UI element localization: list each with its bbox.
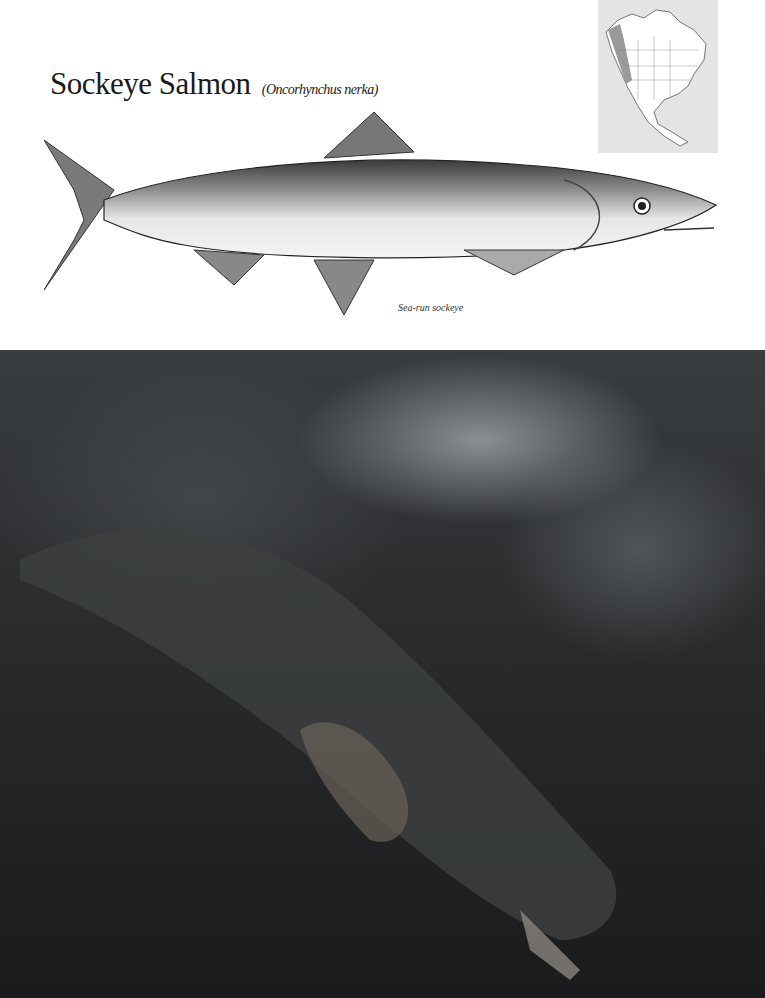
salmon-silhouette	[0, 350, 765, 998]
fish-illustration	[44, 110, 724, 325]
common-name: Sockeye Salmon	[50, 66, 251, 101]
illustration-caption: Sea-run sockeye	[398, 302, 463, 313]
underwater-photo	[0, 350, 765, 998]
page-title: Sockeye Salmon (Oncorhynchus nerka)	[50, 66, 378, 102]
scientific-name: (Oncorhynchus nerka)	[262, 82, 378, 97]
illustration-panel: Sockeye Salmon (Oncorhynchus nerka) Sea-…	[0, 0, 765, 350]
